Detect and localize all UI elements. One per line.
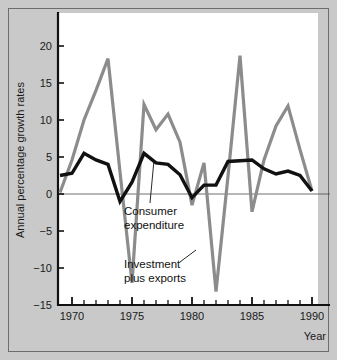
annotation-line: plus exports	[124, 272, 186, 284]
annotation-line: Consumer	[124, 205, 177, 217]
y-tick-label--10: −10	[33, 262, 52, 274]
x-tick-label-1990: 1990	[300, 310, 324, 322]
y-tick-label-5: 5	[46, 151, 52, 163]
y-axis-tick-labels: 20151050−5−10−15	[33, 40, 52, 311]
figure-background: 20151050−5−10−15 19701975198019851990 Co…	[0, 0, 337, 360]
y-tick-label-10: 10	[40, 114, 52, 126]
x-axis-title: Year	[304, 330, 327, 342]
growth-rates-line-chart: 20151050−5−10−15 19701975198019851990 Co…	[0, 0, 337, 360]
y-tick-label-0: 0	[46, 188, 52, 200]
x-tick-label-1985: 1985	[240, 310, 264, 322]
x-tick-label-1975: 1975	[120, 310, 144, 322]
y-tick-label--5: −5	[39, 225, 52, 237]
annotation-line: Investment	[124, 258, 181, 270]
x-axis-tick-labels: 19701975198019851990	[60, 310, 324, 322]
y-tick-label-20: 20	[40, 40, 52, 52]
y-tick-label-15: 15	[40, 77, 52, 89]
x-tick-label-1980: 1980	[180, 310, 204, 322]
y-axis-title: Annual percentage growth rates	[14, 82, 26, 238]
y-tick-label--15: −15	[33, 299, 52, 311]
annotation-line: expenditure	[124, 219, 184, 231]
x-tick-label-1970: 1970	[60, 310, 84, 322]
